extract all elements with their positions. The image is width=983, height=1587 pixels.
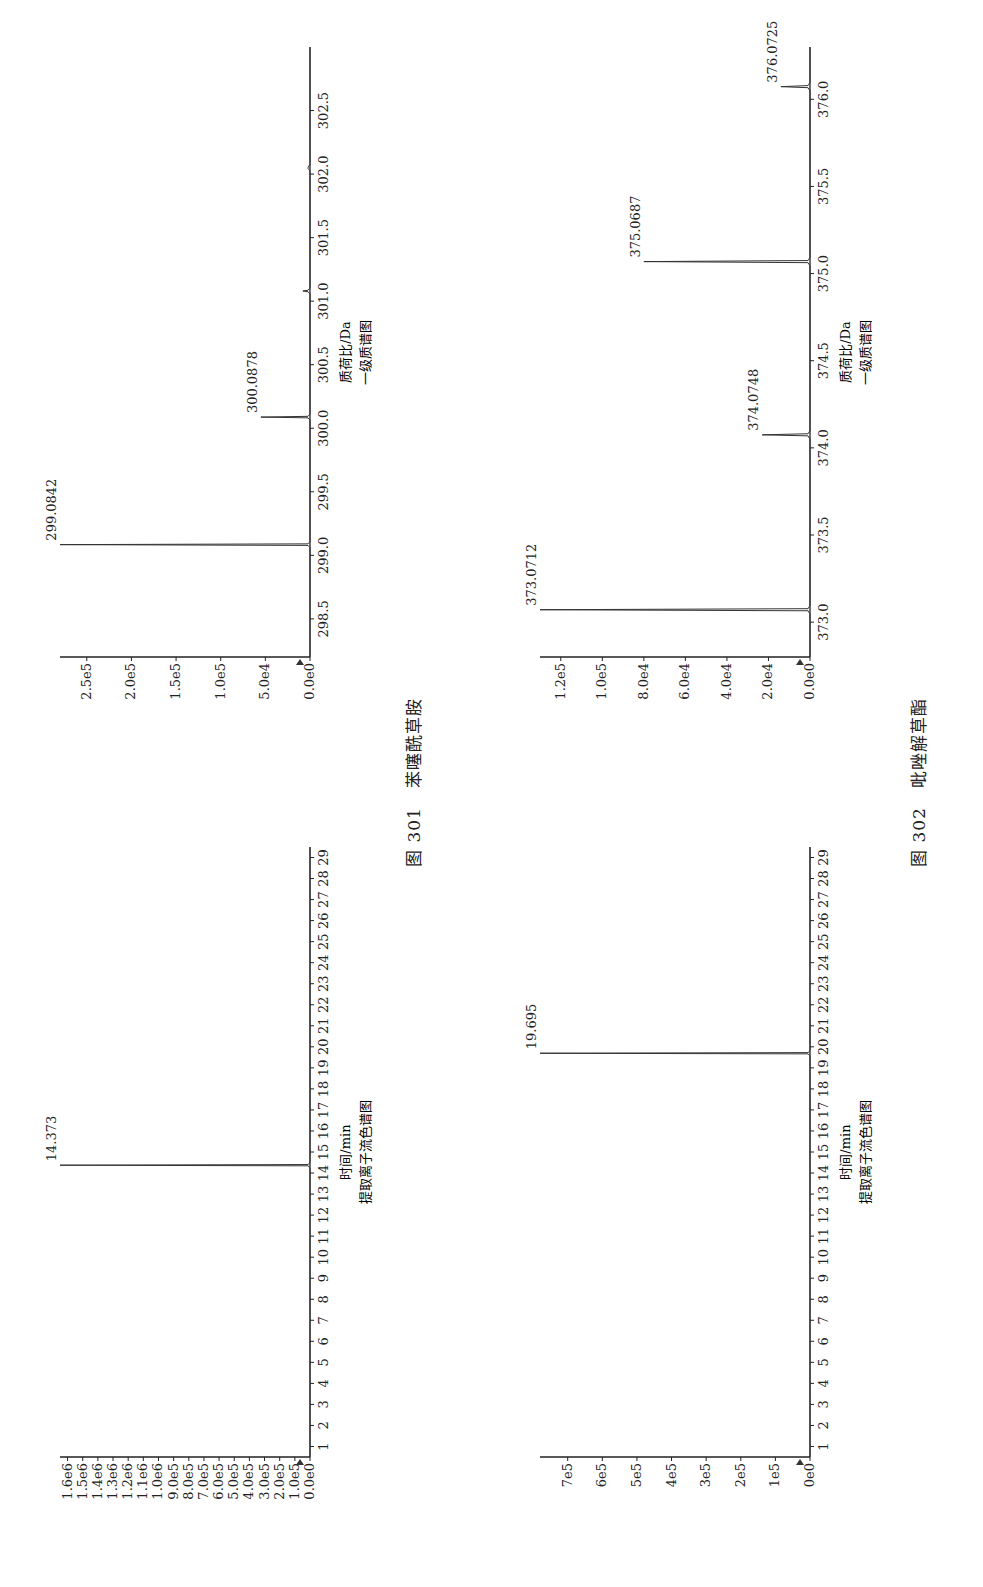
y-tick-label: 2.0e4 [760, 663, 775, 700]
x-tick-label: 25 [816, 933, 831, 950]
fig302-caption: 图 302 吡唑解草酯 [905, 698, 930, 867]
x-tick-label: 7 [816, 1316, 831, 1324]
x-tick-label: 374.0 [816, 429, 831, 466]
x-tick-label: 15 [816, 1144, 831, 1161]
fig302-ms-chart: 0.0e02.0e44.0e46.0e48.0e41.0e51.2e5373.0… [510, 27, 890, 727]
x-tick-label: 10 [816, 1249, 831, 1266]
x-tick-label: 4 [316, 1379, 331, 1387]
baseline-marker-icon [296, 659, 304, 665]
peak-label: 19.695 [524, 1004, 539, 1050]
fig301-xic-chart: 0.0e01.0e52.0e53.0e54.0e55.0e56.0e57.0e5… [30, 827, 390, 1527]
x-tick-label: 376.0 [816, 81, 831, 118]
x-tick-label: 26 [816, 912, 831, 929]
x-tick-label: 18 [816, 1081, 831, 1098]
x-tick-label: 14 [316, 1165, 331, 1182]
x-tick-label: 6 [816, 1337, 831, 1345]
y-tick-label: 3.0e5 [257, 1463, 272, 1500]
x-tick-label: 3 [316, 1400, 331, 1408]
fig301-caption-number: 图 301 [404, 807, 424, 867]
x-tick-label: 19 [816, 1060, 831, 1077]
x-tick-label: 23 [316, 975, 331, 992]
x-tick-label: 2 [316, 1421, 331, 1429]
peak-label: 299.0842 [44, 479, 59, 541]
y-tick-label: 1e5 [767, 1463, 782, 1487]
fig302-caption-number: 图 302 [909, 807, 929, 867]
x-tick-label: 16 [816, 1123, 831, 1140]
trace-line [60, 47, 310, 657]
y-tick-label: 8.0e4 [636, 663, 651, 700]
x-tick-label: 8 [816, 1295, 831, 1303]
peak-label: 300.0878 [245, 351, 260, 413]
chart-subtitle: 提取离子流色谱图 [358, 1100, 373, 1204]
x-tick-label: 22 [816, 996, 831, 1013]
fig302-xic-chart: 0e01e52e53e54e55e56e57e51234567891011121… [510, 827, 890, 1527]
y-tick-label: 4e5 [664, 1463, 679, 1487]
rotated-page: 0.0e01.0e52.0e53.0e54.0e55.0e56.0e57.0e5… [0, 0, 983, 1587]
x-tick-label: 3 [816, 1400, 831, 1408]
x-tick-label: 301.5 [316, 219, 331, 256]
y-tick-label: 0.0e0 [302, 663, 317, 700]
chart-subtitle: 一级质谱图 [358, 320, 373, 385]
x-tick-label: 16 [316, 1123, 331, 1140]
x-tick-label: 298.5 [316, 600, 331, 637]
y-tick-label: 1.0e5 [287, 1463, 302, 1500]
y-tick-label: 8.0e5 [181, 1463, 196, 1500]
fig302-ms-svg: 0.0e02.0e44.0e46.0e48.0e41.0e51.2e5373.0… [510, 27, 890, 727]
y-tick-label: 2.0e5 [272, 1463, 287, 1500]
x-tick-label: 27 [316, 891, 331, 908]
y-tick-label: 7.0e5 [196, 1463, 211, 1500]
x-tick-label: 28 [816, 870, 831, 887]
y-tick-label: 1.3e6 [105, 1463, 120, 1500]
y-tick-label: 0.0e0 [802, 663, 817, 700]
x-tick-label: 17 [316, 1102, 331, 1119]
x-tick-label: 12 [316, 1207, 331, 1224]
x-tick-label: 12 [816, 1207, 831, 1224]
x-tick-label: 299.0 [316, 537, 331, 574]
x-tick-label: 29 [316, 849, 331, 866]
peak-label: 14.373 [44, 1116, 59, 1162]
fig301-caption-name: 苯噻酰草胺 [404, 698, 424, 788]
x-tick-label: 5 [816, 1358, 831, 1366]
y-tick-label: 2.5e5 [79, 663, 94, 700]
y-tick-label: 5.0e4 [257, 663, 272, 700]
x-tick-label: 375.5 [816, 168, 831, 205]
y-tick-label: 1.6e6 [60, 1463, 75, 1500]
x-tick-label: 11 [816, 1228, 831, 1245]
y-tick-label: 1.2e5 [553, 663, 568, 700]
x-tick-label: 15 [316, 1144, 331, 1161]
x-tick-label: 24 [316, 954, 331, 971]
x-tick-label: 21 [816, 1018, 831, 1035]
x-tick-label: 4 [816, 1379, 831, 1387]
y-tick-label: 1.0e5 [594, 663, 609, 700]
fig302-xic-svg: 0e01e52e53e54e55e56e57e51234567891011121… [510, 827, 890, 1527]
x-tick-label: 9 [316, 1274, 331, 1282]
x-tick-label: 302.0 [316, 155, 331, 192]
x-tick-label: 14 [816, 1165, 831, 1182]
trace-line [540, 847, 810, 1457]
x-tick-label: 299.5 [316, 473, 331, 510]
x-tick-label: 13 [816, 1186, 831, 1203]
x-tick-label: 29 [816, 849, 831, 866]
y-tick-label: 6.0e4 [677, 663, 692, 700]
x-tick-label: 18 [316, 1081, 331, 1098]
y-tick-label: 1.4e6 [90, 1463, 105, 1500]
x-tick-label: 21 [316, 1018, 331, 1035]
peak-label: 373.0712 [524, 544, 539, 606]
fig301-ms-chart: 0.0e05.0e41.0e51.5e52.0e52.5e5298.5299.0… [30, 27, 390, 727]
y-tick-label: 5.0e5 [226, 1463, 241, 1500]
y-tick-label: 3e5 [698, 1463, 713, 1487]
x-tick-label: 302.5 [316, 92, 331, 129]
x-tick-label: 22 [316, 996, 331, 1013]
y-tick-label: 2e5 [733, 1463, 748, 1487]
chart-subtitle: 一级质谱图 [858, 320, 873, 385]
x-tick-label: 301.0 [316, 283, 331, 320]
x-tick-label: 19 [316, 1060, 331, 1077]
y-tick-label: 0e0 [802, 1463, 817, 1487]
y-tick-label: 0.0e0 [302, 1463, 317, 1500]
y-tick-label: 1.2e6 [120, 1463, 135, 1500]
x-tick-label: 373.5 [816, 516, 831, 553]
x-tick-label: 28 [316, 870, 331, 887]
y-tick-label: 4.0e4 [719, 663, 734, 700]
baseline-marker-icon [796, 1459, 804, 1465]
x-tick-label: 2 [816, 1421, 831, 1429]
